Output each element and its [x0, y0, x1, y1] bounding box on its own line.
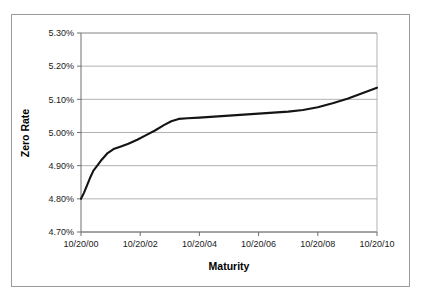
y-axis-tick-label: 4.80% [48, 194, 74, 204]
x-axis-tick-label: 10/20/00 [63, 239, 98, 249]
y-axis-tickmarks [77, 33, 81, 232]
y-axis-title: Zero Rate [19, 109, 31, 158]
y-axis-tick-label: 5.20% [48, 61, 74, 71]
x-axis-tick-label: 10/20/06 [241, 239, 276, 249]
y-axis-tick-label: 5.30% [48, 28, 74, 38]
y-axis-tick-label: 4.90% [48, 161, 74, 171]
y-axis-tick-label: 5.10% [48, 95, 74, 105]
zero-rate-series-line [81, 88, 377, 199]
x-axis-tick-label: 10/20/08 [300, 239, 335, 249]
x-axis-tick-label: 10/20/02 [123, 239, 158, 249]
x-axis-tick-label: 10/20/10 [359, 239, 394, 249]
y-axis-tick-label: 5.00% [48, 128, 74, 138]
y-axis-tick-labels: 4.70%4.80%4.90%5.00%5.10%5.20%5.30% [48, 28, 74, 237]
x-axis-tickmarks [81, 232, 377, 236]
zero-rate-curve-chart: 4.70%4.80%4.90%5.00%5.10%5.20%5.30% 10/2… [0, 0, 424, 303]
x-axis-title: Maturity [209, 260, 250, 272]
x-axis-tick-labels: 10/20/0010/20/0210/20/0410/20/0610/20/08… [63, 239, 394, 249]
y-axis-tick-label: 4.70% [48, 227, 74, 237]
gridlines [81, 33, 377, 232]
x-axis-tick-label: 10/20/04 [182, 239, 217, 249]
